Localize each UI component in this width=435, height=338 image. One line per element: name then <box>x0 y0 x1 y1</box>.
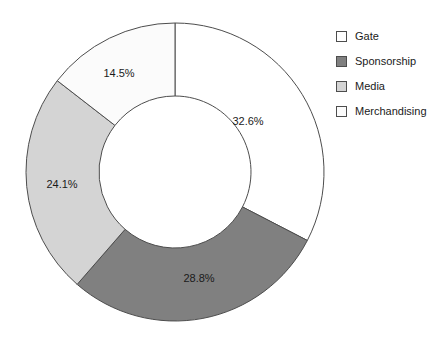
legend-item-label: Sponsorship <box>355 56 416 67</box>
legend-item[interactable]: Media <box>336 75 435 97</box>
donut-chart: 32.6%28.8%24.1%14.5% GateSponsorshipMedi… <box>0 0 435 338</box>
pie-slice <box>175 23 324 240</box>
legend-swatch-icon <box>336 56 347 67</box>
pie-slice-label: 28.8% <box>183 272 214 284</box>
legend-swatch-icon <box>336 31 347 42</box>
legend-item[interactable]: Merchandising <box>336 100 435 122</box>
legend-item-label: Media <box>355 81 385 92</box>
chart-legend: GateSponsorshipMediaMerchandising <box>336 25 435 125</box>
legend-item[interactable]: Sponsorship <box>336 50 435 72</box>
legend-item-label: Merchandising <box>355 106 427 117</box>
pie-slice-label: 24.1% <box>46 178 77 190</box>
legend-swatch-icon <box>336 81 347 92</box>
pie-slice-label: 14.5% <box>103 67 134 79</box>
pie-slices-group <box>26 23 324 321</box>
legend-item-label: Gate <box>355 31 379 42</box>
legend-swatch-icon <box>336 106 347 117</box>
pie-slice-label: 32.6% <box>232 115 263 127</box>
legend-item[interactable]: Gate <box>336 25 435 47</box>
